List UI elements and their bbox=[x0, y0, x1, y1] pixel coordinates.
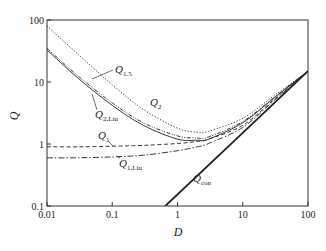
series-label-q-2: Q2 bbox=[150, 96, 162, 111]
y-axis-label: Q bbox=[7, 111, 21, 120]
y-tick-label: 10 bbox=[34, 77, 44, 88]
y-tick-label: 100 bbox=[29, 15, 44, 26]
chart: 0.010.11101000.1110100 Q1.5Q2Q2,LiuQ1Q1,… bbox=[0, 0, 326, 251]
series-line-q-2-liu bbox=[47, 50, 308, 141]
series-annotations: Q1.5Q2Q2,LiuQ1Q1,LiuQcon bbox=[92, 63, 212, 187]
series-line-q-con bbox=[165, 71, 308, 206]
x-tick-label: 0.1 bbox=[106, 209, 119, 220]
y-tick-label: 1 bbox=[39, 139, 44, 150]
axis-ticks: 0.010.11101000.1110100 bbox=[29, 15, 316, 221]
plot-frame bbox=[47, 20, 308, 206]
x-tick-label: 100 bbox=[301, 209, 316, 220]
x-tick-label: 10 bbox=[238, 209, 248, 220]
series-line-q-1-liu bbox=[47, 71, 308, 158]
series-lines bbox=[47, 26, 308, 206]
series-line-q-1-5 bbox=[47, 26, 308, 133]
series-label-q-1: Q1 bbox=[98, 129, 110, 144]
leader-line bbox=[92, 70, 113, 79]
series-label-q-1-5: Q1.5 bbox=[115, 63, 132, 78]
x-axis-label: D bbox=[173, 225, 183, 239]
y-tick-label: 0.1 bbox=[32, 201, 45, 212]
x-tick-label: 1 bbox=[175, 209, 180, 220]
series-line-q-2 bbox=[47, 48, 308, 138]
series-label-q-1-liu: Q1,Liu bbox=[119, 157, 142, 172]
series-label-q-2-liu: Q2,Liu bbox=[95, 108, 118, 123]
series-label-q-con: Qcon bbox=[193, 172, 212, 187]
